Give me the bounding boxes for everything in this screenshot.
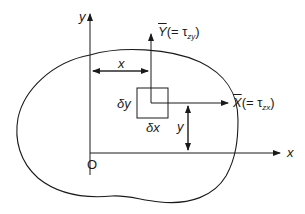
x-distance-label: x: [118, 57, 125, 70]
y-stress-equals: (= τ: [167, 24, 188, 39]
y-axis-label: y: [79, 10, 86, 23]
element-height-label: δy: [117, 97, 131, 110]
cross-section-boundary: [17, 50, 238, 203]
diagram-canvas: y x O x y δy δx Y(= τzy) X(= τzx): [0, 0, 305, 214]
element-width-label: δx: [146, 121, 160, 134]
y-stress-close: ): [195, 24, 199, 39]
origin-label: O: [87, 158, 97, 171]
y-stress-symbol: Y: [158, 24, 167, 39]
x-axis-label: x: [287, 146, 294, 159]
x-stress-symbol: X: [233, 95, 242, 110]
x-stress-label: X(= τzx): [233, 96, 275, 112]
x-stress-equals: (= τ: [242, 95, 263, 110]
x-stress-close: ): [270, 95, 274, 110]
y-distance-label: y: [177, 120, 184, 133]
y-stress-label: Y(= τzy): [158, 25, 200, 41]
